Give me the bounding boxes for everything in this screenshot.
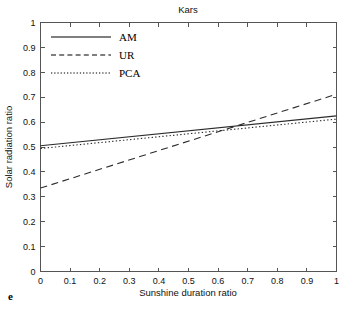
x-tick-label: 0.9: [301, 276, 314, 286]
panel-label: e: [8, 290, 13, 302]
legend-label-pca: PCA: [119, 67, 140, 79]
x-axis-ticks: [41, 23, 337, 272]
x-tick-label: 0.7: [241, 276, 254, 286]
x-tick-label: 0.5: [182, 276, 195, 286]
y-tick-label: 0.8: [23, 68, 36, 78]
x-tick-label: 1: [334, 276, 339, 286]
x-tick-label: 0.3: [123, 276, 136, 286]
chart-canvas: 00.10.20.30.40.50.60.70.80.91 00.10.20.3…: [0, 0, 354, 313]
figure-container: 00.10.20.30.40.50.60.70.80.91 00.10.20.3…: [0, 0, 354, 313]
y-tick-label: 0.3: [23, 192, 36, 202]
data-series-group: [41, 94, 337, 188]
x-tick-label: 0.6: [212, 276, 225, 286]
y-tick-label: 0.1: [23, 242, 36, 252]
x-tick-label: 0.1: [64, 276, 77, 286]
y-axis-tick-labels: 00.10.20.30.40.50.60.70.80.91: [23, 18, 36, 277]
plot-frame: [41, 23, 337, 272]
chart-title: Kars: [178, 4, 198, 15]
y-tick-label: 0.5: [23, 142, 36, 152]
x-tick-label: 0.8: [271, 276, 284, 286]
y-axis-title: Solar radiation ratio: [3, 106, 14, 188]
y-tick-label: 0.4: [23, 167, 36, 177]
y-tick-label: 1: [30, 18, 35, 28]
legend-label-ur: UR: [119, 49, 135, 61]
series-line-pca: [41, 119, 337, 148]
legend-label-am: AM: [119, 31, 137, 43]
x-tick-label: 0.4: [153, 276, 166, 286]
x-tick-label: 0.2: [93, 276, 106, 286]
x-axis-tick-labels: 00.10.20.30.40.50.60.70.80.91: [38, 276, 339, 286]
chart-legend: AMURPCA: [51, 31, 140, 79]
y-axis-ticks: [41, 23, 337, 272]
y-tick-label: 0: [30, 267, 35, 277]
x-tick-label: 0: [38, 276, 43, 286]
y-tick-label: 0.9: [23, 43, 36, 53]
y-tick-label: 0.7: [23, 92, 36, 102]
y-tick-label: 0.6: [23, 117, 36, 127]
x-axis-title: Sunshine duration ratio: [139, 287, 237, 298]
y-tick-label: 0.2: [23, 217, 36, 227]
